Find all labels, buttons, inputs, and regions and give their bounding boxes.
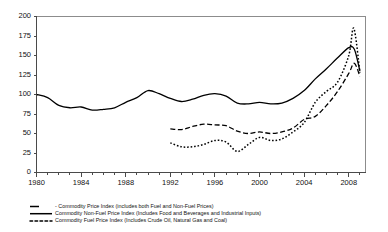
y-tick-label: 125 — [18, 70, 31, 79]
legend-label: - Commodity Price Index (includes both F… — [55, 203, 214, 209]
series-line-2 — [170, 28, 360, 152]
x-tick-label: 1984 — [73, 178, 90, 187]
data-series-group — [37, 28, 360, 152]
legend-item[interactable]: - Commodity Price Index (includes both F… — [30, 203, 214, 209]
y-tick-label: 25 — [23, 148, 31, 157]
chart-legend: - Commodity Price Index (includes both F… — [30, 203, 261, 223]
y-tick-label: 175 — [18, 31, 31, 40]
y-tick-label: 75 — [23, 109, 31, 118]
legend-item[interactable]: Commodity Non-Fuel Price Index (Includes… — [30, 210, 261, 216]
x-tick-label: 2004 — [296, 178, 313, 187]
plot-frame — [37, 17, 366, 173]
legend-label: Commodity Fuel Price Index (Includes Cru… — [55, 217, 227, 223]
series-line-1 — [170, 63, 360, 133]
plot-border — [37, 17, 366, 173]
x-tick-label: 2000 — [251, 178, 268, 187]
y-tick-label: 200 — [18, 11, 31, 20]
y-axis-ticks: 0255075100125150175200 — [18, 11, 36, 176]
x-tick-label: 1992 — [162, 178, 179, 187]
legend-label: Commodity Non-Fuel Price Index (Includes… — [55, 210, 261, 216]
chart-figure: 0255075100125150175200 19801984198819921… — [0, 0, 388, 232]
y-tick-label: 100 — [18, 89, 31, 98]
y-tick-label: 150 — [18, 50, 31, 59]
x-tick-label: 1988 — [117, 178, 134, 187]
series-line-0 — [37, 46, 360, 110]
x-axis-ticks: 19801984198819921996200020042008 — [28, 173, 360, 188]
x-tick-label: 1996 — [207, 178, 224, 187]
y-tick-label: 50 — [23, 128, 31, 137]
x-tick-label: 1980 — [28, 178, 45, 187]
commodity-price-index-line-chart: 0255075100125150175200 19801984198819921… — [0, 0, 388, 232]
x-tick-label: 2008 — [340, 178, 357, 187]
y-tick-label: 0 — [27, 167, 31, 176]
legend-item[interactable]: Commodity Fuel Price Index (Includes Cru… — [30, 217, 227, 223]
